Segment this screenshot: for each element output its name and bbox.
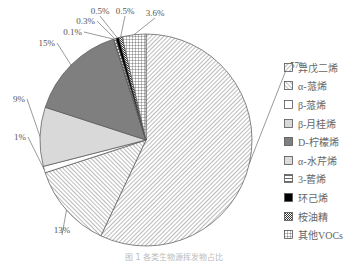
legend-item: 桉油精 bbox=[284, 207, 343, 226]
legend-label: D-柠檬烯 bbox=[298, 134, 339, 149]
data-label-2: 13% bbox=[54, 225, 71, 235]
legend-label: 桉油精 bbox=[298, 209, 328, 224]
legend-item: α-蒎烯 bbox=[284, 77, 343, 96]
data-label-4: 9% bbox=[13, 94, 26, 104]
data-label-10: 3.6% bbox=[146, 8, 165, 18]
legend-swatch-icon bbox=[284, 100, 293, 109]
legend-item: D-柠檬烯 bbox=[284, 132, 343, 151]
legend-label: α-水芹烯 bbox=[298, 153, 337, 168]
data-label-9: 0.5% bbox=[116, 6, 135, 16]
leader-line-4 bbox=[27, 99, 40, 137]
legend-item: α-水芹烯 bbox=[284, 151, 343, 170]
legend-label: 异戊二烯 bbox=[298, 60, 338, 75]
data-label-6: 0.1% bbox=[63, 27, 82, 37]
legend-label: β-月桂烯 bbox=[298, 116, 336, 131]
legend-swatch-icon bbox=[284, 174, 293, 183]
legend-item: β-蒎烯 bbox=[284, 95, 343, 114]
figure-caption: 图 1 各类生物源挥发物占比 bbox=[0, 251, 348, 262]
legend-swatch-icon bbox=[284, 156, 293, 165]
leader-line-5 bbox=[57, 43, 71, 65]
leader-line-1 bbox=[249, 65, 288, 163]
data-label-8: 0.5% bbox=[91, 6, 110, 16]
legend-swatch-icon bbox=[284, 193, 293, 202]
data-label-5: 15% bbox=[39, 38, 56, 48]
legend-item: β-月桂烯 bbox=[284, 114, 343, 133]
leader-line-10 bbox=[134, 18, 155, 35]
legend-label: β-蒎烯 bbox=[298, 97, 326, 112]
leader-line-9 bbox=[121, 16, 125, 37]
legend-label: 3-蒈烯 bbox=[298, 171, 326, 186]
legend: 异戊二烯α-蒎烯β-蒎烯β-月桂烯D-柠檬烯α-水芹烯3-蒈烯环己烯桉油精其他V… bbox=[284, 58, 343, 244]
legend-label: 其他VOCs bbox=[298, 227, 343, 242]
legend-item: 异戊二烯 bbox=[284, 58, 343, 77]
legend-item: 环己烯 bbox=[284, 188, 343, 207]
data-label-7: 0.3% bbox=[76, 16, 95, 26]
legend-swatch-icon bbox=[284, 63, 293, 72]
legend-label: α-蒎烯 bbox=[298, 78, 327, 93]
legend-item: 其他VOCs bbox=[284, 225, 343, 244]
legend-item: 3-蒈烯 bbox=[284, 170, 343, 189]
legend-label: 环己烯 bbox=[298, 190, 328, 205]
legend-swatch-icon bbox=[284, 212, 293, 221]
legend-swatch-icon bbox=[284, 137, 293, 146]
data-label-3: 1% bbox=[14, 132, 27, 142]
legend-swatch-icon bbox=[284, 119, 293, 128]
legend-swatch-icon bbox=[284, 81, 293, 90]
legend-swatch-icon bbox=[284, 230, 293, 239]
